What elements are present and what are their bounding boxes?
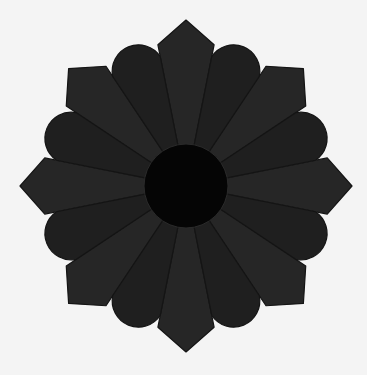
rosette-image: Dresden-plate style rosette of 16 dark f… (0, 0, 367, 375)
dresden-plate-rosette (0, 0, 367, 375)
center-circle (144, 144, 228, 228)
